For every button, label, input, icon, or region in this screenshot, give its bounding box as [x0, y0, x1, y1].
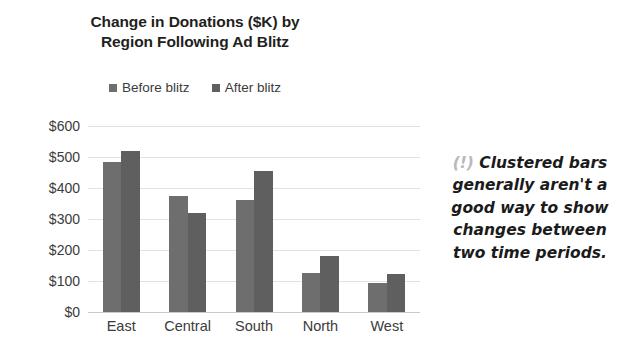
bar[interactable] — [188, 213, 207, 312]
x-axis-tick-label: West — [370, 318, 403, 334]
y-axis-tick-label: $200 — [49, 242, 80, 258]
y-axis-tick-label: $600 — [49, 118, 80, 134]
legend-swatch-icon-after-blitz — [212, 84, 220, 92]
bar[interactable] — [236, 200, 255, 312]
bar[interactable] — [254, 171, 273, 312]
y-axis-tick-label: $500 — [49, 149, 80, 165]
annotation-line: good way to show — [432, 197, 628, 219]
annotation-line: (!) Clustered bars — [432, 152, 628, 174]
x-axis-labels: EastCentralSouthNorthWest — [88, 318, 420, 342]
y-axis-tick-label: $0 — [64, 304, 80, 320]
legend-label-before-blitz: Before blitz — [122, 80, 190, 95]
warning-icon: (!) — [453, 154, 480, 172]
annotation-line: two time periods. — [432, 242, 628, 264]
chart-screenshot: Change in Donations ($K) by Region Follo… — [0, 0, 635, 351]
legend-item-after-blitz[interactable]: After blitz — [212, 80, 281, 95]
bars-layer — [88, 126, 420, 312]
annotation-note: (!) Clustered barsgenerally aren't agood… — [432, 152, 628, 264]
y-axis-labels: $600$500$400$300$200$100$0 — [0, 0, 86, 351]
bar[interactable] — [387, 274, 406, 312]
legend-label-after-blitz: After blitz — [225, 80, 281, 95]
x-axis-tick-label: North — [303, 318, 338, 334]
bar-cluster — [302, 126, 339, 312]
bar-cluster — [236, 126, 273, 312]
annotation-line: generally aren't a — [432, 174, 628, 196]
x-axis-tick-label: South — [235, 318, 273, 334]
annotation-line: changes between — [432, 219, 628, 241]
bar[interactable] — [169, 196, 188, 312]
legend-swatch-icon-before-blitz — [109, 84, 117, 92]
plot-area — [88, 126, 420, 312]
bar[interactable] — [103, 162, 122, 312]
bar-cluster — [103, 126, 140, 312]
bar-cluster — [169, 126, 206, 312]
y-axis-tick-label: $100 — [49, 273, 80, 289]
y-axis-tick-label: $400 — [49, 180, 80, 196]
bar[interactable] — [320, 256, 339, 312]
bar-cluster — [368, 126, 405, 312]
bar[interactable] — [368, 283, 387, 312]
y-axis-tick-label: $300 — [49, 211, 80, 227]
legend-item-before-blitz[interactable]: Before blitz — [109, 80, 190, 95]
bar[interactable] — [121, 151, 140, 312]
bar[interactable] — [302, 273, 321, 312]
x-axis-tick-label: Central — [164, 318, 211, 334]
gridline-$0 — [88, 312, 420, 313]
x-axis-tick-label: East — [107, 318, 136, 334]
